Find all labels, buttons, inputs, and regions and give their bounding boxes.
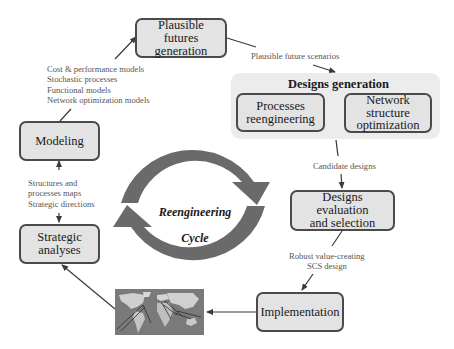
strategic-analyses-label: Strategic analyses	[37, 231, 81, 257]
network-structure-optimization-box: Network structure optimization	[344, 93, 432, 133]
reengineering-cycle-title: Reengineering Cycle	[150, 193, 240, 258]
implementation-box: Implementation	[256, 292, 344, 332]
structures-processes-maps-label: Structures and processes maps Strategic …	[28, 178, 95, 209]
candidate-designs-label: Candidate designs	[313, 161, 376, 171]
plausible-futures-generation-box: Plausible futures generation	[135, 18, 227, 58]
designs-generation-title: Designs generation	[288, 77, 389, 92]
network-structure-optimization-label: Network structure optimization	[356, 94, 419, 132]
designs-evaluation-box: Designs evaluation and selection	[290, 190, 395, 231]
connectors-layer	[0, 0, 454, 349]
plausible-future-scenarios-label: Plausible future scenarios	[251, 51, 339, 61]
modeling-label: Modeling	[35, 135, 84, 148]
robust-design-label: Robust value-creating SCS design	[289, 251, 365, 272]
cycle-title-line2: Cycle	[150, 232, 240, 245]
world-map-icon	[115, 289, 204, 335]
world-map-image	[115, 289, 204, 335]
processes-reengineering-label: Processes reengineering	[246, 100, 315, 126]
modeling-box: Modeling	[19, 121, 100, 161]
implementation-label: Implementation	[260, 306, 339, 319]
designs-evaluation-label: Designs evaluation and selection	[295, 191, 390, 230]
plausible-futures-generation-label: Plausible futures generation	[140, 19, 222, 58]
cycle-title-line1: Reengineering	[150, 206, 240, 219]
strategic-analyses-box: Strategic analyses	[19, 224, 100, 264]
reengineering-cycle-diagram: Plausible futures generation Plausible f…	[0, 0, 454, 349]
processes-reengineering-box: Processes reengineering	[236, 93, 325, 132]
models-list-label: Cost & performance models Stochastic pro…	[47, 64, 150, 105]
